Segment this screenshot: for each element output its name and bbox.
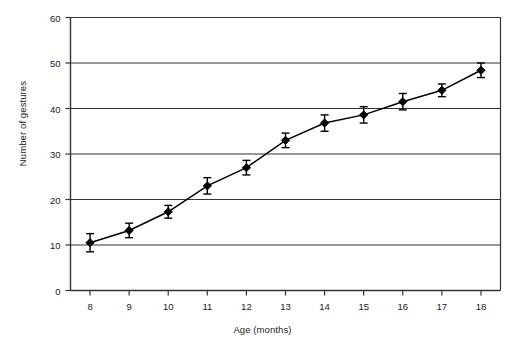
axis-ticks [66, 18, 481, 296]
plot-canvas [0, 0, 525, 353]
gridlines [71, 18, 501, 246]
error-bars [86, 63, 485, 252]
data-markers [86, 66, 485, 247]
data-line [90, 70, 481, 242]
chart-figure: Number of gestures Age (months) 01020304… [0, 0, 525, 353]
